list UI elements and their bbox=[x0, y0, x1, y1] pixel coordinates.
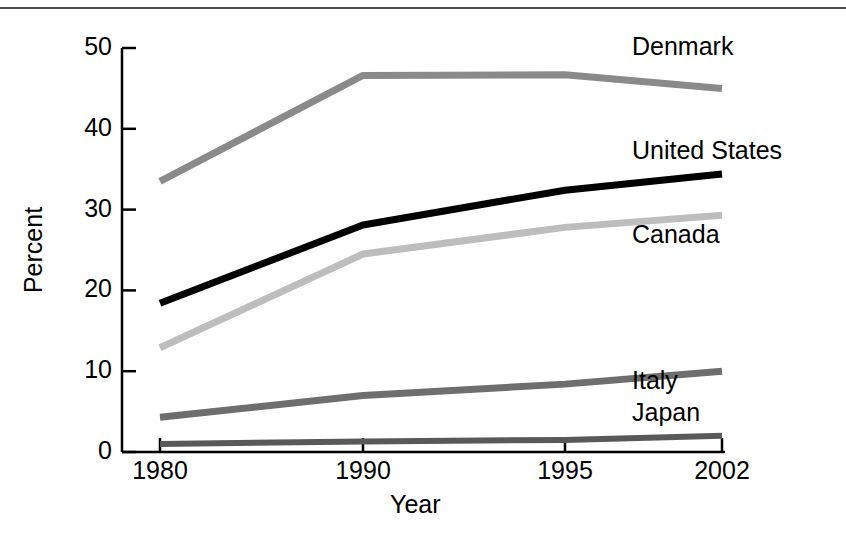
y-axis-ticks bbox=[122, 48, 136, 452]
series-label-united-states: United States bbox=[632, 138, 782, 163]
x-tick-label: 1980 bbox=[100, 458, 220, 483]
y-tick-label: 20 bbox=[0, 276, 112, 301]
series-label-italy: Italy bbox=[632, 368, 678, 393]
x-tick-label: 2002 bbox=[662, 458, 782, 483]
series-label-japan: Japan bbox=[632, 400, 700, 425]
series-label-denmark: Denmark bbox=[632, 34, 733, 59]
y-tick-label: 40 bbox=[0, 115, 112, 140]
figure-container: Percent 01020304050 1980199019952002 Den… bbox=[0, 0, 846, 537]
y-tick-label: 0 bbox=[0, 438, 112, 463]
x-tick-label: 1995 bbox=[505, 458, 625, 483]
y-tick-label: 50 bbox=[0, 34, 112, 59]
series-line-japan bbox=[160, 436, 722, 444]
y-tick-label: 30 bbox=[0, 196, 112, 221]
y-tick-label: 10 bbox=[0, 357, 112, 382]
series-label-canada: Canada bbox=[632, 222, 720, 247]
series-line-denmark bbox=[160, 75, 722, 182]
x-tick-label: 1990 bbox=[303, 458, 423, 483]
x-axis-title: Year bbox=[390, 492, 441, 517]
